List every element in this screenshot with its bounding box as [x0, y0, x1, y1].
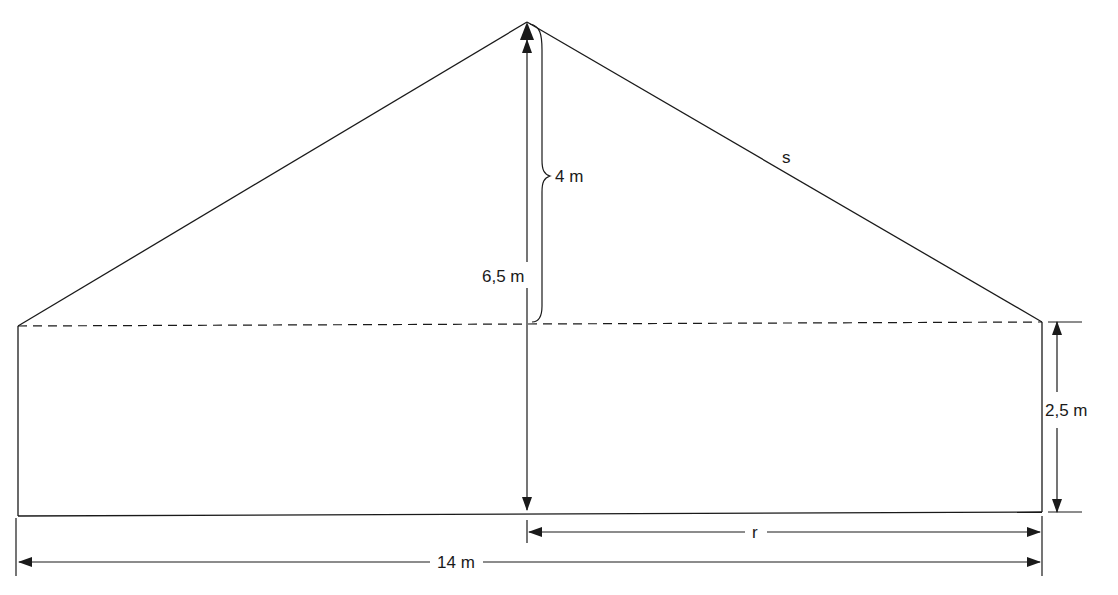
- total-height-label: 6,5 m: [482, 267, 525, 286]
- roof-left-edge: [18, 22, 527, 326]
- half-width-label: r: [752, 523, 758, 542]
- total-height-dimension: [520, 22, 534, 510]
- half-width-dimension-r: [527, 516, 1042, 576]
- diagram-canvas: 6,5 m 4 m s 2,5 m r 14 m: [0, 0, 1118, 595]
- roof-height-brace: [530, 24, 550, 322]
- base-line: [18, 512, 1042, 516]
- wall-height-label: 2,5 m: [1045, 401, 1088, 420]
- roof-outline: [18, 22, 1042, 326]
- wall-rectangle: [18, 322, 1042, 516]
- roof-right-edge-s: [527, 22, 1042, 322]
- total-width-dimension: [16, 518, 1040, 576]
- total-width-label: 14 m: [437, 553, 475, 572]
- slant-label-s: s: [782, 148, 791, 167]
- roof-height-label: 4 m: [555, 167, 583, 186]
- eave-dashed-line: [18, 322, 1042, 326]
